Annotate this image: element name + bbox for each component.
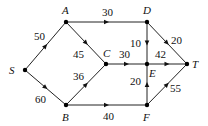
edge-capacity-label: 36 — [73, 70, 85, 82]
node-label-c: C — [103, 47, 111, 59]
node-a — [64, 20, 68, 24]
edge-capacity-label: 42 — [155, 48, 166, 60]
edge-capacity-label: 20 — [130, 75, 142, 87]
edge-capacity-label: 20 — [171, 34, 183, 46]
node-c — [104, 62, 108, 66]
node-label-t: T — [192, 58, 199, 70]
edge-capacity-label: 55 — [170, 82, 182, 94]
node-label-a: A — [61, 4, 69, 16]
node-label-b: B — [62, 111, 69, 123]
arrowhead-icon — [165, 62, 170, 67]
node-t — [185, 62, 189, 66]
edge-capacity-label: 40 — [103, 110, 115, 122]
edge-capacity-label: 45 — [73, 48, 85, 60]
edge-capacity-label: 30 — [119, 48, 131, 60]
node-d — [145, 20, 149, 24]
node-e — [145, 62, 149, 66]
edge-capacity-label: 60 — [35, 93, 47, 105]
arrowhead-icon — [145, 41, 150, 46]
edge-capacity-label: 10 — [130, 37, 142, 49]
edge-capacity-label: 50 — [34, 30, 46, 42]
node-label-d: D — [142, 4, 151, 16]
arrowhead-icon — [145, 82, 150, 87]
node-s — [23, 68, 27, 72]
node-label-s: S — [9, 64, 15, 76]
node-label-f: F — [142, 111, 150, 123]
arrowhead-icon — [104, 20, 109, 25]
edge-capacity-label: 30 — [102, 6, 114, 18]
flow-network-diagram: 506030453640301020422055SABCDEFT — [0, 0, 208, 126]
node-b — [64, 103, 68, 107]
node-f — [145, 103, 149, 107]
arrowhead-icon — [104, 103, 109, 108]
node-label-e: E — [148, 67, 156, 79]
arrowhead-icon — [124, 62, 129, 67]
